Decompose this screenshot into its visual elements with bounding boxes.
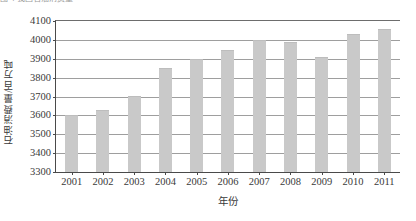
x-tick-mark: [259, 172, 260, 175]
y-axis-title-text: 石油消费量/百万吨: [2, 58, 16, 145]
bar-series: 2001200220032004200520062007200820092010…: [56, 21, 400, 172]
x-tick-label: 2010: [343, 177, 364, 188]
y-tick-label: 3300: [30, 167, 51, 178]
bar-slot: 2003: [119, 21, 150, 172]
bar: [159, 68, 172, 172]
y-tick-label: 4100: [30, 16, 51, 27]
y-tick-mark: [53, 172, 56, 173]
bar: [65, 115, 78, 172]
bar-slot: 2004: [150, 21, 181, 172]
x-axis-title-text: 年份: [218, 196, 238, 207]
bar-chart-figure: 图 4 我国石油消费量 石油消费量/百万吨 330034003500360037…: [0, 0, 416, 221]
x-tick-label: 2003: [124, 177, 145, 188]
bar: [253, 40, 266, 172]
bar: [221, 50, 234, 172]
x-tick-label: 2011: [374, 177, 395, 188]
x-tick-mark: [384, 172, 385, 175]
bar-slot: 2001: [56, 21, 87, 172]
y-tick-label: 3800: [30, 73, 51, 84]
x-tick-mark: [72, 172, 73, 175]
bar: [190, 59, 203, 172]
bar: [128, 96, 141, 172]
bar-slot: 2005: [181, 21, 212, 172]
x-tick-mark: [353, 172, 354, 175]
bar-slot: 2011: [369, 21, 400, 172]
x-tick-label: 2007: [249, 177, 270, 188]
x-tick-label: 2006: [217, 177, 238, 188]
y-tick-label: 3500: [30, 129, 51, 140]
bar: [347, 34, 360, 172]
x-tick-mark: [228, 172, 229, 175]
bar-slot: 2002: [87, 21, 118, 172]
x-tick-label: 2004: [155, 177, 176, 188]
x-tick-mark: [290, 172, 291, 175]
y-axis-title: 石油消费量/百万吨: [2, 28, 16, 176]
plot-area: 330034003500360037003800390040004100 200…: [55, 20, 400, 173]
bar-slot: 2006: [212, 21, 243, 172]
x-tick-mark: [165, 172, 166, 175]
bar-slot: 2007: [244, 21, 275, 172]
x-tick-label: 2009: [311, 177, 332, 188]
bar-slot: 2008: [275, 21, 306, 172]
bar: [96, 110, 109, 172]
x-tick-mark: [103, 172, 104, 175]
x-tick-label: 2001: [61, 177, 82, 188]
x-tick-mark: [197, 172, 198, 175]
y-tick-label: 3600: [30, 110, 51, 121]
x-tick-label: 2005: [186, 177, 207, 188]
x-tick-label: 2002: [92, 177, 113, 188]
x-tick-mark: [322, 172, 323, 175]
clipped-caption-text: 图 4 我国石油消费量: [0, 0, 92, 3]
bar: [284, 42, 297, 172]
y-tick-label: 3900: [30, 54, 51, 65]
bar-slot: 2009: [306, 21, 337, 172]
y-tick-label: 4000: [30, 35, 51, 46]
x-axis-title: 年份: [55, 196, 400, 207]
y-tick-label: 3700: [30, 92, 51, 103]
clipped-caption-strip: 图 4 我国石油消费量: [0, 0, 92, 7]
y-tick-label: 3400: [30, 148, 51, 159]
bar: [315, 57, 328, 172]
x-tick-mark: [134, 172, 135, 175]
bar-slot: 2010: [337, 21, 368, 172]
x-tick-label: 2008: [280, 177, 301, 188]
bar: [378, 29, 391, 172]
